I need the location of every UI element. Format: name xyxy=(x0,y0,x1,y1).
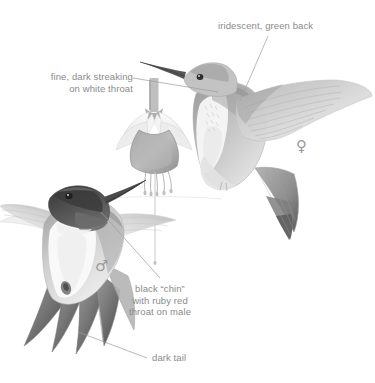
label-iridescent-green-back: iridescent, green back xyxy=(218,20,313,32)
leader-dark-tail xyxy=(78,332,147,358)
label-dark-tail: dark tail xyxy=(152,352,186,364)
female-symbol-icon: ♀ xyxy=(296,139,307,154)
label-fine-dark-streaking: fine, dark streaking on white throat xyxy=(0,71,138,94)
illustration-plate xyxy=(0,0,375,383)
male-hummingbird xyxy=(0,180,176,354)
label-black-chin-ruby-throat: black “chin” with ruby red throat on mal… xyxy=(105,283,215,318)
male-symbol-icon: ♂ xyxy=(95,259,108,274)
